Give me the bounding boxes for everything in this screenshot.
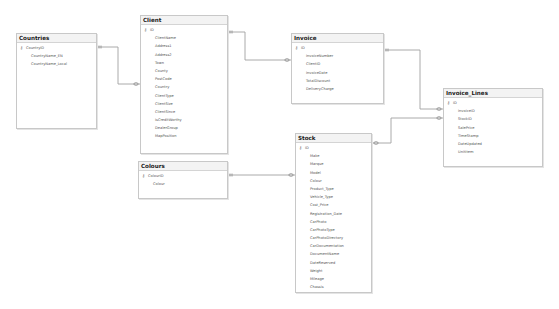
field-row[interactable]: CountryName_Local bbox=[17, 60, 96, 68]
field-row[interactable]: DateUpdated bbox=[444, 140, 542, 148]
field-row[interactable]: Model bbox=[296, 169, 371, 177]
key-icon: ⚷ bbox=[447, 99, 450, 107]
field-row[interactable]: StockID bbox=[444, 115, 542, 123]
field-row[interactable]: SalePrice bbox=[444, 124, 542, 132]
field-row[interactable]: MapPosition bbox=[141, 132, 227, 140]
field-row[interactable]: ClientName bbox=[141, 34, 227, 42]
field-row[interactable]: TimeStamp bbox=[444, 132, 542, 140]
table-title: Invoice bbox=[292, 34, 383, 43]
key-icon: ⚷ bbox=[299, 144, 302, 152]
field-row[interactable]: CarPhoto bbox=[296, 218, 371, 226]
table-title: Client bbox=[141, 16, 227, 25]
field-row[interactable]: Address1 bbox=[141, 42, 227, 50]
key-icon: ⚷ bbox=[142, 172, 145, 180]
field-row[interactable]: ⚷CountryID bbox=[17, 44, 96, 52]
field-row[interactable]: CarPhotoType bbox=[296, 226, 371, 234]
relationship-stock-invoicelines bbox=[372, 118, 443, 143]
field-row[interactable]: IsCreditWorthy bbox=[141, 116, 227, 124]
field-row[interactable]: ⚷ID bbox=[141, 26, 227, 34]
field-row[interactable]: ClientType bbox=[141, 92, 227, 100]
key-icon: ⚷ bbox=[20, 44, 23, 52]
key-icon: ⚷ bbox=[295, 44, 298, 52]
relationship-countries-client bbox=[97, 47, 140, 84]
field-row[interactable]: InvoiceNumber bbox=[292, 52, 383, 60]
field-row[interactable]: DealerGroup bbox=[141, 124, 227, 132]
field-row[interactable]: PostCode bbox=[141, 75, 227, 83]
field-row[interactable]: Chassis bbox=[296, 283, 371, 291]
field-row[interactable]: County bbox=[141, 67, 227, 75]
field-row[interactable]: InvoiceID bbox=[444, 107, 542, 115]
field-row[interactable]: ⚷ID bbox=[444, 99, 542, 107]
field-row[interactable]: Cost_Price bbox=[296, 201, 371, 209]
table-client[interactable]: Client ⚷ID ClientName Address1 Address2 … bbox=[140, 15, 228, 154]
field-row[interactable]: TotalDiscount bbox=[292, 77, 383, 85]
field-row[interactable]: Mileage bbox=[296, 275, 371, 283]
field-row[interactable]: ClientID bbox=[292, 60, 383, 68]
field-row[interactable]: CountryName_EN bbox=[17, 52, 96, 60]
table-title: Stock bbox=[296, 134, 371, 143]
table-invoice[interactable]: Invoice ⚷ID InvoiceNumber ClientID Invoi… bbox=[291, 33, 384, 104]
field-row[interactable]: InvoiceDate bbox=[292, 69, 383, 77]
table-title: Invoice_Lines bbox=[444, 89, 542, 98]
field-row[interactable]: CarPhotoDirectory bbox=[296, 234, 371, 242]
relationship-invoice-invoicelines bbox=[384, 50, 443, 109]
table-stock[interactable]: Stock ⚷ID Make Marque Model Colour Produ… bbox=[295, 133, 372, 293]
field-row[interactable]: Address2 bbox=[141, 51, 227, 59]
field-row[interactable]: DeliveryCharge bbox=[292, 85, 383, 93]
table-title: Countries bbox=[17, 34, 96, 43]
field-row[interactable]: Town bbox=[141, 59, 227, 67]
field-row[interactable]: ClientSince bbox=[141, 108, 227, 116]
field-row[interactable]: Make bbox=[296, 152, 371, 160]
field-row[interactable]: ⚷ColourID bbox=[139, 172, 227, 180]
field-row[interactable]: UnitItem bbox=[444, 148, 542, 156]
field-row[interactable]: Product_Type bbox=[296, 185, 371, 193]
field-row[interactable]: ⚷ID bbox=[292, 44, 383, 52]
field-row[interactable]: Weight bbox=[296, 267, 371, 275]
relationship-client-invoice bbox=[228, 32, 291, 60]
field-row[interactable]: Marque bbox=[296, 160, 371, 168]
table-invoice-lines[interactable]: Invoice_Lines ⚷ID InvoiceID StockID Sale… bbox=[443, 88, 543, 167]
field-row[interactable]: Registration_Date bbox=[296, 210, 371, 218]
field-row[interactable]: Colour bbox=[139, 180, 227, 188]
field-row[interactable]: Vehicle_Type bbox=[296, 193, 371, 201]
table-countries[interactable]: Countries ⚷CountryID CountryName_EN Coun… bbox=[16, 33, 97, 129]
field-row[interactable]: Colour bbox=[296, 177, 371, 185]
key-icon: ⚷ bbox=[144, 26, 147, 34]
field-row[interactable]: ClientSize bbox=[141, 100, 227, 108]
table-colours[interactable]: Colours ⚷ColourID Colour bbox=[138, 161, 228, 199]
field-row[interactable]: DocumentName bbox=[296, 250, 371, 258]
field-row[interactable]: ⚷ID bbox=[296, 144, 371, 152]
table-title: Colours bbox=[139, 162, 227, 171]
field-row[interactable]: CarDocumentation bbox=[296, 242, 371, 250]
field-row[interactable]: DateReserved bbox=[296, 259, 371, 267]
field-row[interactable]: Country bbox=[141, 83, 227, 91]
